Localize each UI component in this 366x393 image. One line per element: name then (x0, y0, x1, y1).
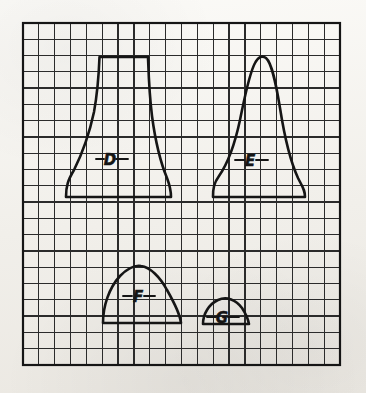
curve-label-f: F (133, 288, 144, 306)
graph-paper-figure: DEFG (0, 0, 366, 393)
paper-sheet: DEFG (0, 0, 366, 393)
curve-label-d: D (104, 151, 116, 169)
curve-e (213, 57, 305, 197)
curve-label-g: G (216, 309, 228, 327)
grid-lines (23, 23, 340, 365)
curve-label-e: E (245, 152, 256, 170)
